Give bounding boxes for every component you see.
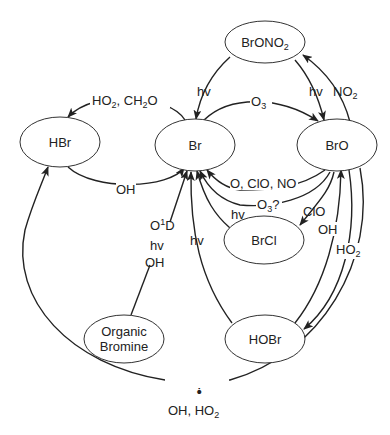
node-bro: BrO (297, 119, 377, 171)
label-hobr-to-bro: OH (318, 222, 338, 237)
label-bro-to-brcl: ClO (303, 204, 325, 219)
node-label-organic-line1: Organic (101, 324, 147, 339)
edge-organic-to-br (131, 265, 150, 315)
label-organic-o1d: O1D (150, 217, 175, 233)
node-label-organic-line2: Bromine (100, 339, 148, 354)
label-br-to-hbr: HO2, CH2O (92, 93, 158, 110)
label-brcl-to-br: hv (231, 207, 245, 222)
node-organic-bromine: Organic Bromine (84, 315, 164, 363)
label-hbr-to-br: OH (116, 182, 136, 197)
node-brcl: BrCl (224, 216, 304, 264)
label-bro-to-hbr: OH, HO2 (168, 403, 219, 420)
bromine-chemistry-diagram: BrONO2 HBr Br BrO BrCl Organic Bromine H… (0, 0, 390, 435)
label-organic-hv: hv (150, 238, 164, 253)
node-label-hbr: HBr (49, 135, 72, 150)
label-bronono2-to-br: hv (197, 84, 211, 99)
node-label-br: Br (189, 138, 203, 153)
label-bronono2-to-bro: hv (309, 84, 323, 99)
node-label-brcl: BrCl (251, 233, 276, 248)
node-label-hobr: HOBr (249, 332, 282, 347)
edge-organic-to-br-upper (170, 171, 187, 222)
node-hobr: HOBr (225, 315, 305, 363)
edge-bro-to-hbr (23, 167, 364, 380)
node-bronono2: BrONO2 (225, 21, 305, 63)
node-label-bronono2: BrONO2 (241, 35, 289, 52)
node-label-bro: BrO (325, 138, 348, 153)
label-hobr-to-br: hv (190, 233, 204, 248)
label-bro-to-br-a: O, ClO, NO (230, 176, 296, 191)
label-bro-to-bronono2: NO2 (333, 84, 358, 101)
label-organic-oh: OH (145, 255, 165, 270)
node-br: Br (155, 119, 235, 171)
node-hbr: HBr (20, 117, 100, 167)
